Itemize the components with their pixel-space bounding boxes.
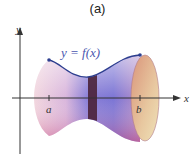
endpoint-a-dot: [47, 58, 51, 62]
tick-label-a: a: [46, 103, 52, 115]
y-axis-label: y: [15, 23, 21, 35]
curve-label: y = f(x): [59, 45, 100, 60]
solid-of-revolution-diagram: y x a b y = f(x): [0, 0, 195, 162]
endpoint-b-dot: [138, 53, 142, 57]
x-axis-label: x: [183, 92, 189, 104]
tick-label-b: b: [136, 103, 142, 115]
y-axis: [17, 27, 23, 154]
